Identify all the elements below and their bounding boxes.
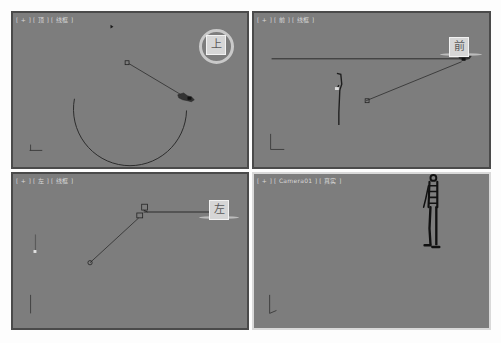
viewport-top[interactable]: [ + ][ 顶 ][ 线框 ] 上 (11, 11, 249, 169)
biped-figure (335, 73, 342, 125)
viewport-front[interactable]: [ + ][ 前 ][ 线框 ] (252, 11, 491, 169)
motion-path-arc (73, 99, 186, 166)
camera-icon (137, 204, 148, 218)
camera-scene (254, 174, 489, 328)
mouse-cursor-icon (111, 25, 114, 29)
axis-tripod-icon (271, 134, 285, 150)
viewport-camera[interactable]: [ + ][ Camera01 ][ 真实 ] (252, 172, 491, 330)
viewcube-front-face[interactable]: 前 (449, 37, 469, 57)
viewcube-top-face[interactable]: 上 (206, 35, 226, 55)
biped-figure (424, 175, 440, 247)
biped-figure (34, 234, 37, 253)
axis-tripod-icon (30, 145, 43, 151)
camera-target-icon (88, 261, 92, 265)
quad-viewport-layout: [ + ][ 顶 ][ 线框 ] 上 [ (0, 0, 501, 343)
camera-icon (178, 93, 195, 102)
camera-target-icon (125, 61, 129, 65)
axis-tripod-icon (270, 295, 277, 314)
viewport-left[interactable]: [ + ][ 左 ][ 线框 ] 左 (11, 172, 249, 330)
viewcube-left-face[interactable]: 左 (209, 200, 229, 220)
left-scene (13, 174, 247, 328)
